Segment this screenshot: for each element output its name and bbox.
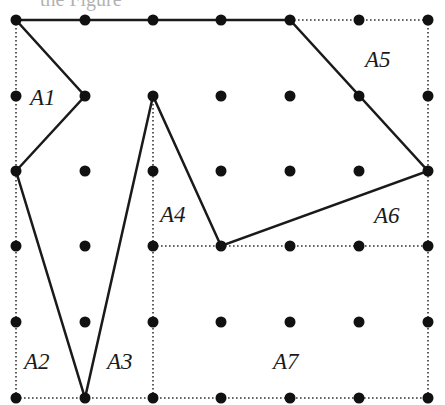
lattice-dot [354,241,365,252]
lattice-dot [80,241,91,252]
region-label-a3: A3 [107,350,133,373]
lattice-dot [285,317,296,328]
lattice-dot [285,393,296,404]
lattice-dot [11,241,22,252]
lattice-dot [80,393,91,404]
lattice-dot [354,91,365,102]
lattice-dot [354,317,365,328]
polygon-outline [16,20,428,398]
lattice-dot [216,166,227,177]
lattice-dot [148,15,159,26]
lattice-dot [423,91,434,102]
lattice-dot [423,15,434,26]
lattice-dot [285,241,296,252]
lattice-dot [11,393,22,404]
region-label-a5: A5 [365,48,391,71]
lattice-dot [354,15,365,26]
lattice-dot [354,393,365,404]
lattice-dot [285,91,296,102]
lattice-dots [11,15,434,404]
lattice-dot [148,91,159,102]
lattice-dot [11,166,22,177]
lattice-dot [216,393,227,404]
lattice-dot [11,91,22,102]
lattice-dot [148,241,159,252]
lattice-dot [423,393,434,404]
lattice-dot [423,241,434,252]
lattice-dot [148,393,159,404]
lattice-dot [80,317,91,328]
lattice-dot [216,241,227,252]
lattice-dot [285,15,296,26]
region-label-a1: A1 [30,86,56,109]
lattice-dot [216,15,227,26]
lattice-dot [354,166,365,177]
lattice-dot [80,91,91,102]
lattice-dot [216,91,227,102]
lattice-dot [148,317,159,328]
lattice-dot [423,317,434,328]
lattice-dot [216,317,227,328]
lattice-dot [11,317,22,328]
lattice-dot [11,15,22,26]
lattice-dot [80,15,91,26]
region-label-a7: A7 [273,350,299,373]
lattice-dot [423,166,434,177]
lattice-dot [148,166,159,177]
region-label-a4: A4 [160,203,186,226]
solid-polygon [16,20,428,398]
dotted-boundary-lines [16,20,428,398]
lattice-dot [285,166,296,177]
lattice-dot [80,166,91,177]
region-label-a2: A2 [24,350,50,373]
region-label-a6: A6 [374,204,400,227]
